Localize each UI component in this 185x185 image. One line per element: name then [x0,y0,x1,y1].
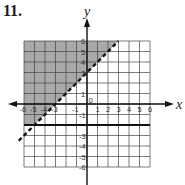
y-tick-label: 3 [81,69,85,78]
y-axis-label: y [82,4,91,19]
y-tick-label: -3 [79,132,86,141]
x-tick-label: 4 [127,105,131,114]
x-axis-left-arrow-icon [8,101,17,107]
y-tick-label: -5 [79,153,86,162]
y-tick-label: 1 [81,90,85,99]
y-tick-label: 4 [81,58,85,67]
x-tick-label: 1 [96,105,100,114]
origin-label: 0 [89,96,93,105]
coordinate-graph: xy-6-5-4-3-112345665431-1-3-4-5-60 [0,0,185,185]
y-tick-label: 6 [81,37,85,46]
x-tick-label: 5 [138,105,142,114]
x-tick-label: 3 [117,105,121,114]
x-axis-right-arrow-icon [165,101,174,107]
x-tick-label: -1 [72,105,79,114]
x-tick-label: -4 [41,105,48,114]
x-tick-label: -3 [51,105,58,114]
y-tick-label: -6 [79,163,86,172]
y-tick-label: -4 [79,142,86,151]
y-tick-label: 5 [81,48,85,57]
y-tick-label: -1 [79,111,86,120]
x-tick-label: -5 [30,105,37,114]
x-axis-label: x [175,97,183,112]
x-tick-label: 6 [148,105,152,114]
x-tick-label: 2 [106,105,110,114]
x-tick-label: -6 [20,105,27,114]
y-axis-up-arrow-icon [84,18,90,27]
